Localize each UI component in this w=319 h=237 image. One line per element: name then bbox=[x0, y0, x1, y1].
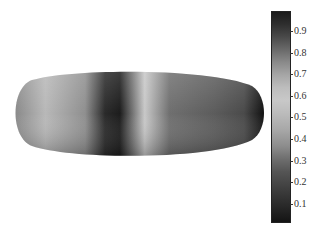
colorbar bbox=[272, 12, 290, 222]
colorbar-tick bbox=[290, 139, 293, 140]
colorbar-tick-label: 0.3 bbox=[294, 156, 307, 166]
colorbar-tick bbox=[290, 74, 293, 75]
colorbar-tick-label: 0.4 bbox=[294, 134, 307, 144]
figure: 0.9 0.8 0.7 0.6 0.5 0.4 0.3 0.2 0.1 bbox=[0, 0, 319, 237]
colorbar-tick-label: 0.2 bbox=[294, 177, 307, 187]
colorbar-tick bbox=[290, 117, 293, 118]
colorbar-tick bbox=[290, 182, 293, 183]
colorbar-tick bbox=[290, 161, 293, 162]
colorbar-tick-label: 0.5 bbox=[294, 112, 307, 122]
colorbar-tick-label: 0.7 bbox=[294, 69, 307, 79]
colorbar-tick-label: 0.8 bbox=[294, 48, 307, 58]
colorbar-tick-label: 0.1 bbox=[294, 199, 307, 209]
colorbar-tick-label: 0.6 bbox=[294, 91, 307, 101]
colorbar-tick bbox=[290, 204, 293, 205]
colorbar-tick bbox=[290, 31, 293, 32]
colorbar-tick bbox=[290, 53, 293, 54]
colorbar-tick bbox=[290, 96, 293, 97]
colorbar-tick-label: 0.9 bbox=[294, 26, 307, 36]
ellipsoid-surface bbox=[12, 68, 266, 158]
